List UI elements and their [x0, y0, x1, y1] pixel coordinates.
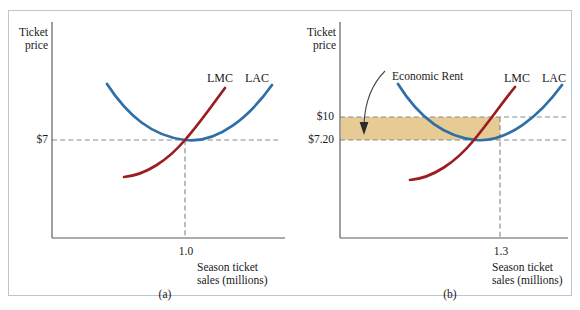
- panel-a-y-axis-title-line1: Ticket: [19, 26, 48, 38]
- panel-b-graphics: [340, 22, 568, 238]
- panel-b-series-label-lac: LAC: [542, 72, 566, 86]
- panel-a-curve-lmc: [124, 88, 225, 177]
- panel-b-y-axis-title: Ticket price: [290, 26, 336, 52]
- panel-a-series-label-lac: LAC: [245, 72, 269, 86]
- panel-a-caption: (a): [145, 288, 185, 301]
- panel-a-series-label-lmc: LMC: [207, 72, 233, 86]
- panel-b-quantity-tick: 1.3: [481, 245, 521, 258]
- economic-rent-annotation: Economic Rent: [392, 70, 463, 83]
- panel-b-caption: (b): [430, 288, 470, 301]
- panel-a-curve-lac: [107, 84, 272, 140]
- panel-b-price-tick-720: $7.20: [288, 133, 334, 146]
- panel-a-x-axis-title-line2: sales (millions): [197, 274, 268, 286]
- economic-rent-arrow-line: [364, 71, 385, 124]
- panel-a-price-tick: $7: [14, 133, 48, 146]
- panel-a-x-axis-title-line1: Season ticket: [197, 261, 258, 273]
- panel-b-series-label-lmc: LMC: [504, 72, 530, 86]
- panel-a-y-axis-title-line2: price: [25, 39, 48, 51]
- panel-b-price-tick-10: $10: [296, 110, 334, 123]
- panel-b-y-axis-title-line1: Ticket: [307, 26, 336, 38]
- panel-a-y-axis-title: Ticket price: [2, 26, 48, 52]
- panel-a-graphics: [52, 22, 285, 238]
- panel-b-y-axis-title-line2: price: [313, 39, 336, 51]
- panel-b-x-axis-title-line2: sales (millions): [492, 274, 563, 286]
- figure-root: Ticket price $7 1.0 Season ticket sales …: [0, 0, 580, 310]
- panel-b-x-axis-title-line1: Season ticket: [492, 261, 553, 273]
- panel-a-x-axis-title: Season ticket sales (millions): [197, 261, 307, 287]
- panel-b-x-axis-title: Season ticket sales (millions): [492, 261, 580, 287]
- panel-a-quantity-tick: 1.0: [166, 245, 206, 258]
